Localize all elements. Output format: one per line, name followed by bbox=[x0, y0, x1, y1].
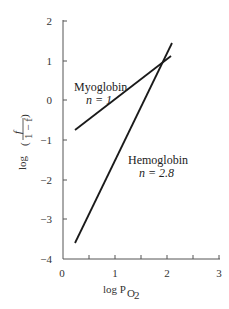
svg-text:−2: −2 bbox=[40, 174, 52, 186]
svg-text:2: 2 bbox=[47, 15, 53, 27]
svg-text:0: 0 bbox=[59, 267, 65, 279]
svg-text:1 − f: 1 − f bbox=[22, 118, 34, 139]
hemoglobin-label: Hemoglobin bbox=[128, 153, 188, 167]
myoglobin-n-label: n = 1 bbox=[86, 93, 112, 107]
svg-text:−1: −1 bbox=[40, 134, 52, 146]
x-axis-label: log P O 2 bbox=[103, 283, 139, 301]
svg-text:1: 1 bbox=[47, 55, 53, 67]
myoglobin-label: Myoglobin bbox=[74, 80, 127, 94]
y-ticks bbox=[63, 21, 67, 219]
svg-text:): ) bbox=[18, 114, 31, 118]
svg-text:1: 1 bbox=[112, 267, 118, 279]
svg-text:2: 2 bbox=[134, 289, 140, 301]
y-tick-labels: 2 1 0 −1 −2 −3 −4 bbox=[40, 15, 52, 265]
y-axis-label: log ( f 1 − f ) bbox=[11, 114, 34, 170]
svg-text:3: 3 bbox=[216, 267, 222, 279]
svg-text:log P: log P bbox=[103, 283, 126, 295]
x-ticks bbox=[89, 255, 219, 259]
svg-text:0: 0 bbox=[47, 94, 53, 106]
hemoglobin-n-label: n = 2.8 bbox=[139, 166, 174, 180]
svg-text:log: log bbox=[16, 155, 28, 170]
hill-plot: 2 1 0 −1 −2 −3 −4 0 1 2 3 log P O 2 log … bbox=[0, 0, 229, 309]
svg-text:−4: −4 bbox=[40, 253, 52, 265]
svg-text:−3: −3 bbox=[40, 213, 52, 225]
svg-text:(: ( bbox=[18, 142, 31, 146]
x-tick-labels: 0 1 2 3 bbox=[59, 267, 222, 279]
hemoglobin-line bbox=[75, 43, 172, 243]
svg-text:2: 2 bbox=[164, 267, 170, 279]
